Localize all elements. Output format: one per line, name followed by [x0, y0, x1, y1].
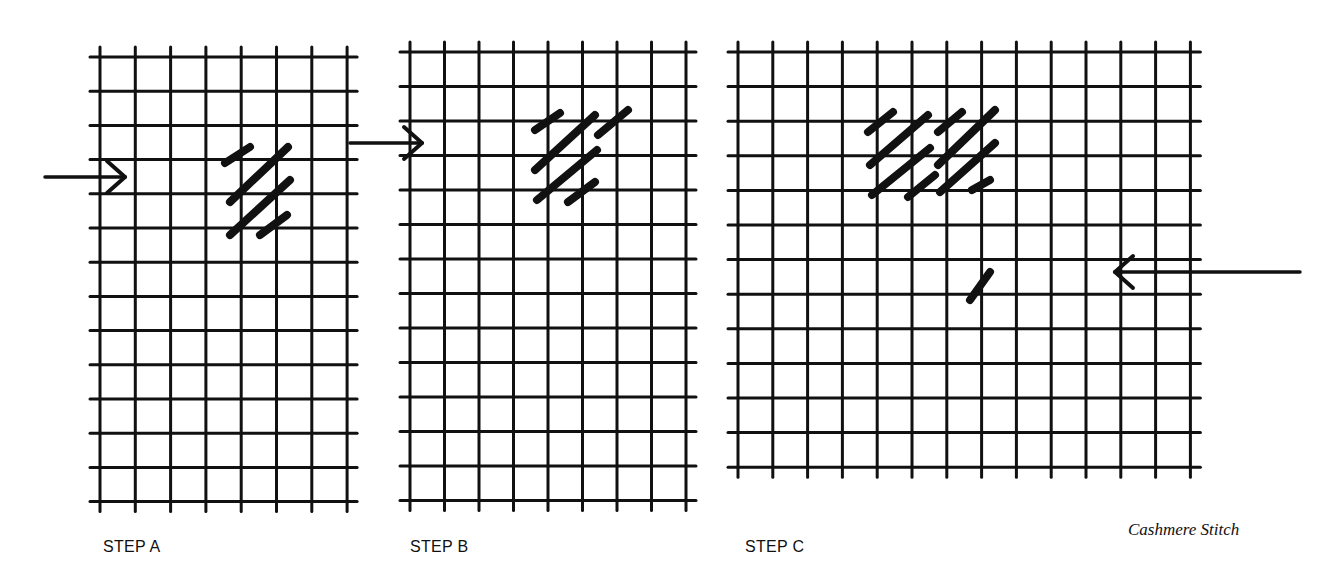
stitch: [972, 180, 990, 190]
panel-a: [45, 47, 357, 512]
stitch: [970, 272, 990, 300]
step-c-label: STEP C: [745, 538, 804, 556]
arrow-right-icon: [45, 161, 125, 193]
step-b-label: STEP B: [410, 538, 468, 556]
step-a-label: STEP A: [103, 538, 161, 556]
stitch: [260, 215, 287, 235]
panel-c: [728, 42, 1300, 477]
panel-b: [350, 42, 696, 511]
arrow-right-icon: [350, 127, 422, 159]
diagram-caption: Cashmere Stitch: [1128, 520, 1239, 540]
stitch-diagram: [0, 0, 1344, 583]
